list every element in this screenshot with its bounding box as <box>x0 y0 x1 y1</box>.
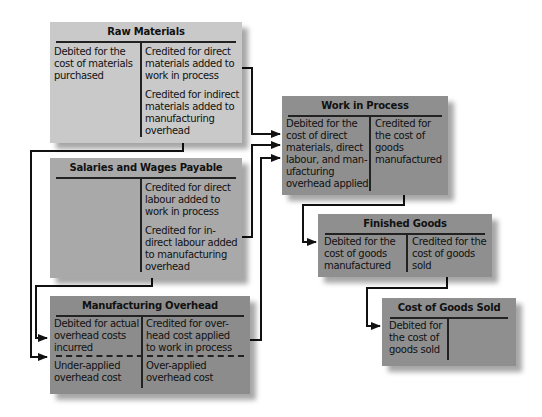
account-work-in-process: Work in Process Debited for the cost of … <box>282 96 448 195</box>
balance-dashed-rule <box>56 355 244 357</box>
credit-entry-indirect-labour: Credited for in- direct labour added to … <box>145 225 237 273</box>
debit-entry: Debited for the cost of goods sold <box>389 320 442 356</box>
account-title: Cost of Goods Sold <box>382 302 516 313</box>
t-account-rule <box>56 41 236 43</box>
account-salaries-wages-payable: Salaries and Wages Payable Credited for … <box>50 158 242 278</box>
account-finished-goods: Finished Goods Debited for the cost of g… <box>318 214 492 277</box>
account-manufacturing-overhead: Manufacturing Overhead Debited for actua… <box>50 296 250 394</box>
arrow-rm-to-wip <box>242 68 280 134</box>
credit-entry-indirect-materials: Credited for indirect materials added to… <box>145 89 239 137</box>
debit-entry: Debited for the cost of materials purcha… <box>54 46 133 82</box>
account-title: Raw Materials <box>50 26 242 37</box>
t-account-rule <box>56 315 244 317</box>
credit-entry: Credited for the cost of goods manufactu… <box>375 118 442 166</box>
t-account-divider <box>447 318 449 360</box>
credit-entry: Credited for over- head cost applied to … <box>146 318 232 354</box>
credit-entry-direct-materials: Credited for direct materials added to w… <box>145 46 234 82</box>
arrow-moh-to-wip <box>250 158 280 340</box>
over-applied-balance: Over-applied overhead cost <box>146 360 213 384</box>
t-account-divider <box>140 178 142 272</box>
t-account-rule <box>325 233 485 235</box>
t-account-divider <box>140 42 142 137</box>
account-title: Work in Process <box>282 100 448 111</box>
t-account-rule <box>288 115 442 117</box>
account-title: Salaries and Wages Payable <box>50 162 242 173</box>
debit-entry: Debited for the cost of direct materials… <box>286 118 368 190</box>
account-title: Finished Goods <box>318 218 492 229</box>
account-raw-materials: Raw Materials Debited for the cost of ma… <box>50 22 242 143</box>
t-account-divider <box>406 234 408 272</box>
debit-entry: Debited for the cost of goods manufactur… <box>324 236 395 272</box>
credit-entry-direct-labour: Credited for direct labour added to work… <box>145 182 231 218</box>
under-applied-balance: Under-applied overhead cost <box>54 360 121 384</box>
t-account-divider <box>141 316 143 388</box>
t-account-rule <box>56 177 236 179</box>
debit-entry: Debited for actual overhead costs incurr… <box>54 318 139 354</box>
account-title: Manufacturing Overhead <box>50 300 250 311</box>
t-account-divider <box>369 116 371 191</box>
credit-entry: Credited for the cost of goods sold <box>412 236 486 272</box>
t-account-rule <box>390 317 508 319</box>
account-cost-of-goods-sold: Cost of Goods Sold Debited for the cost … <box>382 298 516 366</box>
